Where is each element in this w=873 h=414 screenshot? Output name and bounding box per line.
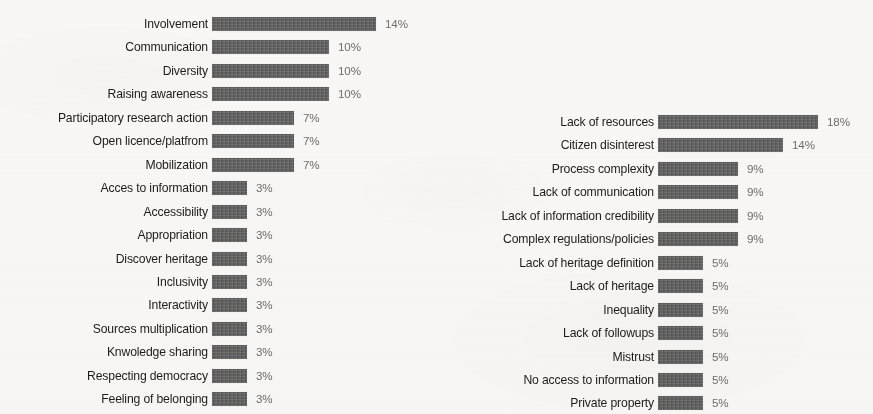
bar-value-label: 5% [703, 326, 729, 340]
bar-category-label: Accessibility [0, 205, 213, 219]
bar-value-label: 3% [247, 181, 273, 195]
bar-category-label: Lack of followups [436, 326, 659, 340]
bar [658, 162, 738, 176]
bar [658, 373, 703, 387]
bar [658, 326, 703, 340]
bar-row: Lack of resources18% [436, 113, 873, 131]
bar-row: Lack of heritage definition5% [436, 254, 873, 272]
bar-value-label: 14% [783, 138, 815, 152]
bar-category-label: Process complexity [436, 162, 659, 176]
bar [658, 185, 738, 199]
bar [212, 322, 247, 336]
bar-row: Lack of communication9% [436, 183, 873, 201]
bar-value-label: 3% [247, 205, 273, 219]
bar-category-label: Participatory research action [0, 111, 213, 125]
bar-value-label: 10% [329, 64, 361, 78]
bar-value-label: 5% [703, 350, 729, 364]
bar-category-label: Communication [0, 40, 213, 54]
bar-value-label: 3% [247, 298, 273, 312]
bar-value-label: 9% [738, 162, 764, 176]
bar-value-label: 3% [247, 345, 273, 359]
bar-row: Acces to information3% [0, 179, 436, 197]
bar [212, 369, 247, 383]
bar [212, 228, 247, 242]
bar-row: Private property5% [436, 394, 873, 412]
bar [212, 158, 294, 172]
bar [212, 252, 247, 266]
bar-value-label: 3% [247, 369, 273, 383]
bar-row: Communication10% [0, 38, 436, 56]
bar-value-label: 3% [247, 322, 273, 336]
bar [212, 392, 247, 406]
bar-category-label: Discover heritage [0, 252, 213, 266]
bar-row: Raising awareness10% [0, 85, 436, 103]
bar-category-label: Interactivity [0, 298, 213, 312]
bar [658, 279, 703, 293]
bar-value-label: 7% [294, 134, 320, 148]
bar-value-label: 5% [703, 256, 729, 270]
bar-row: No access to information5% [436, 371, 873, 389]
bar-row: Inequality5% [436, 301, 873, 319]
bar-row: Participatory research action7% [0, 109, 436, 127]
bar-value-label: 5% [703, 373, 729, 387]
bar-row: Feeling of belonging3% [0, 390, 436, 408]
bar-category-label: Sources multiplication [0, 322, 213, 336]
bar [212, 17, 376, 31]
bar [212, 40, 329, 54]
drivers-bar-rows: Involvement14%Communication10%Diversity1… [0, 0, 436, 414]
bar-row: Respecting democracy3% [0, 367, 436, 385]
bar-category-label: Citizen disinterest [436, 138, 659, 152]
bar-category-label: Lack of heritage definition [436, 256, 659, 270]
bar-value-label: 14% [376, 17, 408, 31]
bar-category-label: Lack of information credibility [436, 209, 659, 223]
bar [212, 87, 329, 101]
bar-row: Citizen disinterest14% [436, 136, 873, 154]
drivers-bar-chart: Involvement14%Communication10%Diversity1… [0, 0, 436, 414]
bar-category-label: Inclusivity [0, 275, 213, 289]
bar-value-label: 5% [703, 303, 729, 317]
bar-value-label: 3% [247, 392, 273, 406]
bar-value-label: 9% [738, 209, 764, 223]
bar-category-label: Knwoledge sharing [0, 345, 213, 359]
barriers-bar-chart: Lack of resources18%Citizen disinterest1… [436, 0, 873, 414]
bar-category-label: Lack of heritage [436, 279, 659, 293]
bar-row: Complex regulations/policies9% [436, 230, 873, 248]
bar-value-label: 3% [247, 228, 273, 242]
bar-category-label: Mobilization [0, 158, 213, 172]
bar [658, 396, 703, 410]
bar-value-label: 3% [247, 252, 273, 266]
bar [212, 181, 247, 195]
barriers-bar-rows: Lack of resources18%Citizen disinterest1… [436, 0, 873, 414]
bar-category-label: Lack of communication [436, 185, 659, 199]
bar-row: Lack of followups5% [436, 324, 873, 342]
bar-category-label: No access to information [436, 373, 659, 387]
bar [212, 111, 294, 125]
bar-row: Involvement14% [0, 15, 436, 33]
bar-row: Appropriation3% [0, 226, 436, 244]
bar-value-label: 10% [329, 87, 361, 101]
bar [658, 232, 738, 246]
bar [658, 350, 703, 364]
bar-category-label: Private property [436, 396, 659, 410]
bar-value-label: 5% [703, 396, 729, 410]
bar-row: Sources multiplication3% [0, 320, 436, 338]
bar-category-label: Acces to information [0, 181, 213, 195]
bar-category-label: Lack of resources [436, 115, 659, 129]
bar [212, 134, 294, 148]
bar-category-label: Respecting democracy [0, 369, 213, 383]
bar-row: Mobilization7% [0, 156, 436, 174]
bar-category-label: Involvement [0, 17, 213, 31]
bar-value-label: 3% [247, 275, 273, 289]
bar-row: Accessibility3% [0, 203, 436, 221]
bar [658, 209, 738, 223]
bar-row: Interactivity3% [0, 296, 436, 314]
bar-category-label: Feeling of belonging [0, 392, 213, 406]
bar-row: Open licence/platfrom7% [0, 132, 436, 150]
bar-row: Lack of heritage5% [436, 277, 873, 295]
bar-row: Lack of information credibility9% [436, 207, 873, 225]
bar-row: Knwoledge sharing3% [0, 343, 436, 361]
bar-category-label: Mistrust [436, 350, 659, 364]
bar [658, 256, 703, 270]
bar-value-label: 7% [294, 111, 320, 125]
bar-row: Discover heritage3% [0, 250, 436, 268]
